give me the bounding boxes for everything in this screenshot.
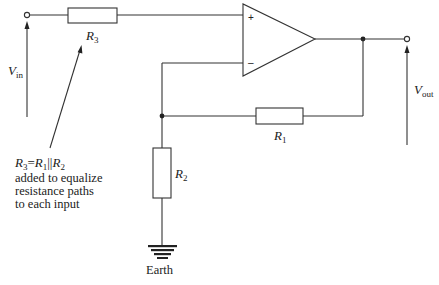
annotation-arrowhead-icon [78,45,83,54]
vin-label: Vin [8,63,23,80]
resistor-r2 [153,148,171,198]
vout-terminal [404,36,409,41]
earth-label: Earth [146,263,174,277]
vout-arrowhead-icon [405,45,410,53]
r1-label: R1 [273,128,286,145]
plus-sign: + [248,12,254,23]
vout-label: Vout [414,82,434,99]
annotation-line-2: resistance paths [15,184,94,198]
r3-label: R3 [85,28,99,45]
annotation-line-3: to each input [15,197,80,211]
resistor-r3 [68,8,117,23]
annotation-line-1: added to equalize [15,171,103,185]
r2-label: R2 [174,166,187,183]
circuit-diagram: + – Earth Vin Vout R3 R1 R2 R3=R1||R2 ad… [0,0,439,285]
vin-terminal [24,12,29,17]
vin-arrowhead-icon [25,21,30,29]
annotation-arrow-line [50,50,80,148]
resistor-r1 [256,108,303,124]
minus-sign: – [248,57,254,68]
annotation-formula: R3=R1||R2 [14,155,65,172]
earth-icon [148,245,177,259]
inverting-junction [160,114,165,119]
